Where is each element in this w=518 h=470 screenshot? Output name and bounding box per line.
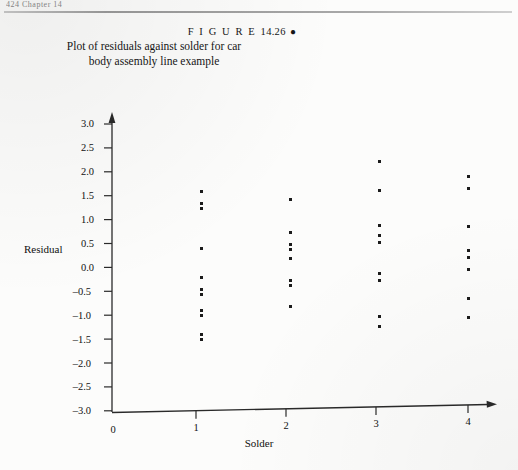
data-point [289, 198, 292, 201]
data-point [467, 187, 470, 190]
data-point [289, 248, 292, 251]
y-tick-label: –3.0 [55, 405, 91, 416]
data-point [467, 256, 470, 259]
y-axis-title: Residual [24, 243, 63, 255]
data-point [289, 305, 292, 308]
y-tick-label: –0.5 [55, 286, 91, 297]
data-point [289, 284, 292, 287]
data-point [289, 243, 292, 246]
x-tick-label: 4 [458, 416, 478, 427]
data-point [200, 333, 203, 336]
data-point [200, 202, 203, 205]
data-point [200, 190, 203, 193]
data-point [289, 279, 292, 282]
y-tick-label: 2.0 [58, 166, 94, 177]
data-point [378, 279, 381, 282]
data-point [200, 276, 203, 279]
data-point [200, 207, 203, 210]
y-tick-label: 3.0 [58, 118, 94, 129]
data-point [467, 175, 470, 178]
x-tick-label: 3 [366, 418, 386, 429]
y-tick-label: –1.0 [55, 310, 91, 321]
scatter-plot: 3.0 2.5 2.0 1.5 1.0 0.5 0.0 –0.5 –1.0 –1… [0, 0, 518, 470]
data-point [200, 288, 203, 291]
data-point [378, 241, 381, 244]
data-point [200, 314, 203, 317]
data-point [200, 293, 203, 296]
x-tick-label: 2 [276, 420, 296, 431]
y-tick-label: 1.0 [58, 214, 94, 225]
data-point [467, 297, 470, 300]
x-tick-label: 0 [103, 424, 123, 435]
data-point [289, 231, 292, 234]
data-point [467, 225, 470, 228]
data-point [200, 309, 203, 312]
y-tick-label: 0.0 [58, 262, 94, 273]
x-axis-title: Solder [0, 437, 518, 449]
y-axis-arrow-icon [109, 112, 116, 123]
x-tick-label: 1 [186, 422, 206, 433]
data-point [467, 316, 470, 319]
y-tick-label: 1.5 [58, 190, 94, 201]
x-axis-line [112, 405, 488, 413]
y-tick-label: –2.0 [55, 358, 91, 369]
scanned-page: 424 Chapter 14 F I G U R E 14.26 ● Plot … [0, 0, 518, 470]
data-point [378, 315, 381, 318]
x-axis-arrow-icon [487, 401, 497, 408]
data-point [200, 247, 203, 250]
data-point [378, 189, 381, 192]
data-point [378, 224, 381, 227]
data-point [378, 160, 381, 163]
data-point [378, 234, 381, 237]
y-tick-marks [104, 124, 112, 411]
y-tick-label: –1.5 [55, 334, 91, 345]
y-tick-label: –2.5 [55, 381, 91, 392]
plot-axes [0, 0, 518, 470]
data-point [289, 257, 292, 260]
data-point [378, 272, 381, 275]
x-tick-marks [196, 405, 468, 419]
data-point [467, 268, 470, 271]
y-tick-label: 0.5 [58, 238, 94, 249]
y-tick-label: 2.5 [58, 142, 94, 153]
data-point [467, 249, 470, 252]
data-point [378, 325, 381, 328]
data-point [200, 338, 203, 341]
